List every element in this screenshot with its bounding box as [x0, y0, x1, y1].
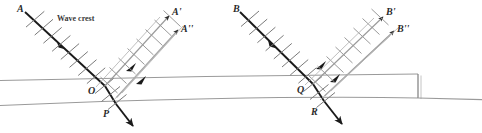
label-ray-B: B — [233, 4, 240, 14]
label-point-P: P — [103, 109, 109, 119]
label-ray-B-double-prime: B'' — [397, 24, 409, 34]
reflected-ray-B-prime-back-arrow — [316, 61, 326, 70]
slab-bottom-boundary — [0, 97, 418, 105]
slab-group — [0, 74, 482, 106]
label-ray-B-prime: B' — [386, 7, 395, 17]
transmitted-ray-P — [116, 104, 133, 126]
incident-ray-B — [240, 12, 313, 84]
figure-canvas: A A' A'' O P B B' B'' Q R Wave crest — [0, 0, 482, 133]
slab-bottom-tail — [418, 98, 482, 100]
label-point-O: O — [88, 86, 95, 96]
label-point-R: R — [311, 107, 318, 117]
reflected-mesh-B — [305, 18, 399, 100]
label-wave-crest: Wave crest — [57, 15, 94, 23]
transmitted-ray-R — [324, 101, 342, 124]
label-ray-A: A — [17, 4, 24, 14]
right-diagram — [240, 9, 399, 124]
refracted-crest-ticks-right — [304, 77, 336, 108]
label-point-Q: Q — [297, 85, 304, 95]
incident-crest-ticks-B — [241, 11, 316, 83]
label-ray-A-double-prime: A'' — [181, 24, 193, 34]
label-ray-A-prime: A' — [172, 7, 181, 17]
slab-top-boundary — [0, 74, 418, 81]
